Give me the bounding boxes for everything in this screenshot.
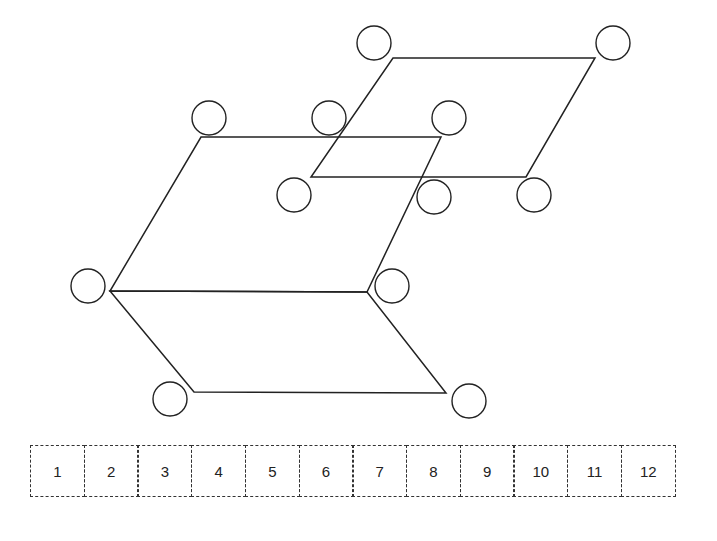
vertex-circle xyxy=(153,382,187,416)
slot-cell: 7 xyxy=(352,445,407,497)
vertex-circle xyxy=(71,269,105,303)
slot-label: 5 xyxy=(268,463,276,480)
slot-cell: 5 xyxy=(245,445,300,497)
slot-label: 9 xyxy=(483,463,491,480)
bottom-face-parallelogram xyxy=(110,291,446,393)
slot-label: 6 xyxy=(322,463,330,480)
numbered-slot-strip: 1 2 3 4 5 6 7 8 9 10 11 12 xyxy=(30,445,676,497)
slot-label: 8 xyxy=(429,463,437,480)
slot-cell: 3 xyxy=(137,445,192,497)
slot-cell: 8 xyxy=(406,445,461,497)
slot-label: 10 xyxy=(532,463,549,480)
slot-cell: 1 xyxy=(30,445,85,497)
vertex-circle xyxy=(277,178,311,212)
slot-cell: 11 xyxy=(567,445,622,497)
slot-label: 4 xyxy=(214,463,222,480)
slot-label: 12 xyxy=(640,463,657,480)
vertex-circle xyxy=(417,180,451,214)
upper-parallelogram xyxy=(311,58,595,177)
vertex-circle xyxy=(432,101,466,135)
parallelogram-diagram xyxy=(0,0,717,440)
vertex-circle xyxy=(596,26,630,60)
slot-label: 7 xyxy=(376,463,384,480)
vertex-circle xyxy=(312,101,346,135)
vertex-circle xyxy=(375,269,409,303)
slot-cell: 9 xyxy=(460,445,515,497)
vertex-circle xyxy=(517,178,551,212)
slot-label: 1 xyxy=(53,463,61,480)
vertex-circle xyxy=(357,26,391,60)
vertex-circle xyxy=(192,101,226,135)
slot-label: 2 xyxy=(107,463,115,480)
slot-cell: 2 xyxy=(84,445,139,497)
slot-cell: 10 xyxy=(513,445,568,497)
vertex-circle xyxy=(452,384,486,418)
slot-label: 11 xyxy=(587,463,603,480)
slot-cell: 4 xyxy=(191,445,246,497)
slot-label: 3 xyxy=(161,463,169,480)
slot-cell: 12 xyxy=(621,445,676,497)
slot-cell: 6 xyxy=(299,445,354,497)
